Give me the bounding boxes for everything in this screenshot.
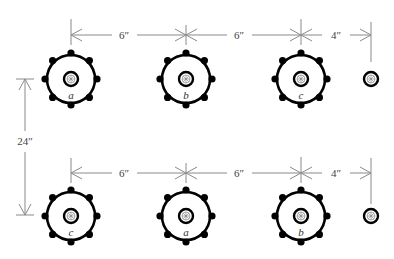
top-dimension-line [71, 19, 371, 62]
top-spacing-label-2: 6″ [234, 29, 244, 41]
plant-label: c [69, 226, 74, 238]
top-spacing-label-1: 6″ [119, 29, 129, 41]
plant-label: b [183, 89, 189, 101]
top-row: 6″ 6″ 4″ a b c [41, 19, 378, 109]
bottom-spacing-label-1: 6″ [119, 167, 129, 179]
top-spacing-label-3: 4″ [331, 29, 341, 41]
bottom-dimension-line [71, 157, 371, 204]
row-spacing-dimension [16, 79, 34, 215]
plant-label: c [299, 89, 304, 101]
plant-label: a [183, 226, 189, 238]
bottom-spacing-label-3: 4″ [331, 167, 341, 179]
bottom-spacing-label-2: 6″ [234, 167, 244, 179]
small-plant-icon [364, 72, 378, 86]
plant-label: a [68, 89, 74, 101]
bottom-row: 6″ 6″ 4″ c a b [41, 157, 378, 246]
row-spacing-label: 24″ [17, 135, 33, 147]
small-plant-icon [364, 209, 378, 223]
spacing-diagram: 6″ 6″ 4″ a b c 24″ [0, 0, 394, 259]
plant-label: b [298, 226, 304, 238]
